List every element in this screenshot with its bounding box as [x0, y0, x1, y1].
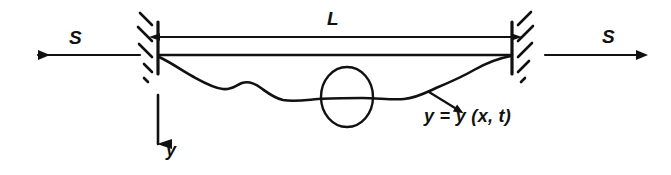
displacement-equation-label: y = y (x, t): [424, 107, 511, 125]
y-axis-label: y: [166, 141, 176, 159]
displaced-string-curve: [159, 56, 511, 101]
tension-label-right: S: [602, 27, 615, 46]
left-wall-support: [138, 13, 158, 82]
vibrating-string-diagram: L S S y y = y (x, t): [0, 0, 671, 175]
tension-label-left: S: [69, 28, 82, 47]
right-wall-support: [512, 12, 533, 82]
length-label: L: [327, 9, 339, 28]
